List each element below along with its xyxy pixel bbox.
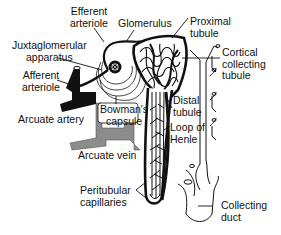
loop-of-henle-shape [145, 88, 172, 204]
label-distal-tubule: Distal tubule [173, 95, 202, 118]
label-peritubular-capillaries: Peritubular capillaries [80, 185, 131, 208]
label-proximal-tubule: Proximal tubule [190, 16, 231, 39]
nephron-diagram: Efferent arteriole Glomerulus Proximal t… [0, 0, 281, 235]
label-glomerulus: Glomerulus [118, 18, 172, 30]
label-efferent-arteriole: Efferent arteriole [70, 6, 108, 29]
label-bowmans-capsule: Bowman's capsule [100, 104, 148, 127]
label-arcuate-artery: Arcuate artery [18, 114, 84, 126]
label-arcuate-vein: Arcuate vein [78, 150, 136, 162]
convoluted-tubules-shape [133, 36, 186, 98]
label-cortical-collecting-tubule: Cortical collecting tubule [222, 47, 266, 82]
label-collecting-duct: Collecting duct [221, 200, 267, 223]
label-juxtaglomerular-apparatus: Juxtaglomerular apparatus [12, 40, 87, 63]
label-loop-of-henle: Loop of Henle [170, 122, 205, 145]
label-afferent-arteriole: Afferent arteriole [22, 70, 60, 93]
